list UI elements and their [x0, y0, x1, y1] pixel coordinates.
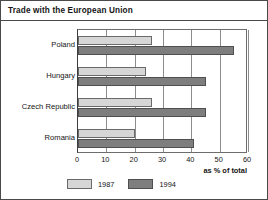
legend-swatch-1987 [67, 179, 92, 189]
bar-group [78, 30, 246, 61]
title-divider [1, 20, 267, 21]
x-tick-30: 30 [158, 155, 166, 164]
bar-group [78, 123, 246, 154]
legend-item-1987[interactable]: 1987 [67, 179, 114, 189]
legend-label-1994: 1994 [159, 180, 175, 189]
x-tick-40: 40 [186, 155, 194, 164]
legend-swatch-1994 [128, 179, 153, 189]
x-tick-0: 0 [75, 155, 79, 164]
chart-figure: Trade with the European Union PolandHung… [0, 0, 268, 200]
gridline-60 [248, 30, 249, 152]
legend-label-1987: 1987 [98, 180, 114, 189]
bar-poland-1987 [78, 36, 152, 45]
bar-group [78, 92, 246, 123]
bar-romania-1994 [78, 139, 194, 148]
chart-title: Trade with the European Union [8, 6, 133, 15]
bar-czech-republic-1987 [78, 98, 152, 107]
x-axis-caption: as % of total [203, 166, 247, 175]
category-label-hungary: Hungary [5, 71, 75, 80]
x-tick-20: 20 [130, 155, 138, 164]
bar-czech-republic-1994 [78, 108, 206, 117]
legend-item-1994[interactable]: 1994 [128, 179, 175, 189]
bar-hungary-1987 [78, 67, 146, 76]
bar-poland-1994 [78, 46, 234, 55]
bar-hungary-1994 [78, 77, 206, 86]
category-axis-labels: PolandHungaryCzech RepublicRomania [3, 29, 75, 153]
x-tick-60: 60 [243, 155, 251, 164]
plot-area [77, 29, 247, 153]
category-label-poland: Poland [5, 40, 75, 49]
chart-legend: 19871994 [67, 179, 176, 189]
bar-group [78, 61, 246, 92]
bar-romania-1987 [78, 129, 135, 138]
category-label-czech-republic: Czech Republic [5, 102, 75, 111]
category-label-romania: Romania [5, 133, 75, 142]
x-tick-10: 10 [101, 155, 109, 164]
x-tick-50: 50 [215, 155, 223, 164]
